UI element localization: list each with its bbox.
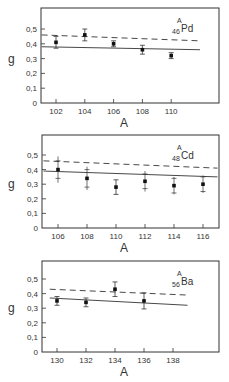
x-tick-label: 112 xyxy=(139,232,152,241)
plot-frame xyxy=(42,261,219,352)
dashed-fit-line xyxy=(42,35,200,41)
plot-frame xyxy=(42,135,219,228)
y-tick-label: 0,1 xyxy=(26,84,38,93)
x-tick-label: 106 xyxy=(51,232,65,241)
data-point xyxy=(114,180,119,195)
x-axis-title: A xyxy=(120,241,128,255)
y-axis-title: g xyxy=(8,301,15,315)
x-tick-label: 110 xyxy=(165,107,178,116)
x-axis-title: A xyxy=(120,365,128,379)
data-point xyxy=(142,293,147,309)
y-axis-title: g xyxy=(8,177,15,191)
y-tick-label: 0,2 xyxy=(27,195,39,204)
element-symbol-label: Ba xyxy=(181,276,194,287)
y-tick-label: 0 xyxy=(33,99,38,108)
data-point xyxy=(56,156,61,182)
y-tick-label: 0,4 xyxy=(27,290,39,299)
data-point xyxy=(82,29,87,41)
y-tick-label: 0,2 xyxy=(27,319,39,328)
x-tick-label: 108 xyxy=(80,232,94,241)
y-tick-label: 0,1 xyxy=(27,209,39,218)
data-point xyxy=(84,298,89,307)
x-tick-label: 116 xyxy=(197,232,210,241)
y-tick-label: 0,4 xyxy=(26,40,38,49)
y-axis-title: g xyxy=(8,52,15,66)
panel-ba: 00,10,20,30,40,5g130132134136138AA56Ba xyxy=(8,261,219,379)
figure: 00,10,20,30,40,5g102104106108110AA46Pd00… xyxy=(0,0,229,382)
dashed-fit-line xyxy=(50,289,188,295)
solid-fit-line xyxy=(50,298,188,305)
x-tick-label: 106 xyxy=(107,107,121,116)
x-tick-label: 114 xyxy=(168,232,181,241)
y-tick-label: 0,5 xyxy=(27,151,39,160)
x-tick-label: 102 xyxy=(49,107,63,116)
data-point xyxy=(201,175,206,193)
y-tick-label: 0,1 xyxy=(27,333,39,342)
y-tick-label: 0,5 xyxy=(27,275,39,284)
solid-fit-line xyxy=(44,171,218,177)
x-tick-label: 108 xyxy=(136,107,150,116)
y-tick-label: 0,3 xyxy=(27,304,39,313)
panel-pd: 00,10,20,30,40,5g102104106108110AA46Pd xyxy=(8,8,219,130)
data-point xyxy=(172,177,177,195)
data-point xyxy=(111,41,116,47)
x-tick-label: 136 xyxy=(137,356,151,365)
data-point xyxy=(113,282,118,297)
data-point xyxy=(140,45,145,54)
panel-cd: 00,10,20,30,40,5g106108110112114116AA48C… xyxy=(8,135,219,255)
atomic-number-label: 56 xyxy=(172,281,180,288)
atomic-number-label: 48 xyxy=(172,155,180,162)
x-axis-title: A xyxy=(120,116,128,130)
y-tick-label: 0,3 xyxy=(27,180,39,189)
element-symbol-label: Cd xyxy=(181,150,194,161)
atomic-number-label: 46 xyxy=(172,28,180,35)
data-point xyxy=(169,53,174,59)
data-point xyxy=(85,167,90,190)
x-tick-label: 134 xyxy=(108,356,122,365)
x-tick-label: 104 xyxy=(78,107,92,116)
x-tick-label: 110 xyxy=(110,232,123,241)
x-tick-label: 132 xyxy=(79,356,93,365)
element-symbol-label: Pd xyxy=(181,23,193,34)
y-tick-label: 0 xyxy=(34,348,39,357)
data-point xyxy=(54,36,59,48)
x-tick-label: 138 xyxy=(166,356,180,365)
y-tick-label: 0,3 xyxy=(26,55,38,64)
dashed-fit-line xyxy=(44,161,218,168)
y-tick-label: 0,4 xyxy=(27,166,39,175)
data-point xyxy=(143,171,148,191)
y-tick-label: 0 xyxy=(34,224,39,233)
y-tick-label: 0,2 xyxy=(26,69,38,78)
solid-fit-line xyxy=(42,47,200,50)
y-tick-label: 0,5 xyxy=(26,25,38,34)
x-tick-label: 130 xyxy=(50,356,64,365)
